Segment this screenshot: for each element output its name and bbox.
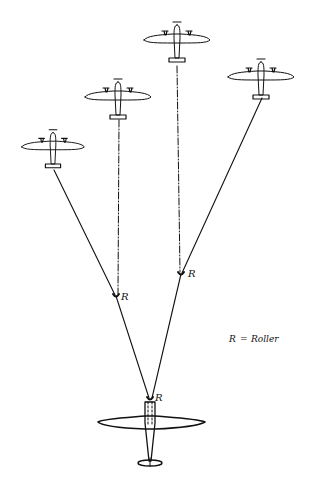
- hose-right-to-tanker: [152, 274, 181, 398]
- hose-left-to-tanker: [116, 296, 149, 398]
- receiver-aircraft-3: [144, 22, 210, 62]
- legend-meaning: Roller: [250, 334, 279, 344]
- roller-label-right: R: [187, 268, 196, 279]
- roller-icon: [178, 272, 184, 275]
- roller-markers: R R R: [113, 268, 196, 403]
- roller-icon: [113, 294, 119, 297]
- hose-receiver-4: [182, 98, 262, 273]
- roller-icon: [147, 397, 153, 400]
- roller-label-left: R: [120, 291, 129, 302]
- hose-receiver-2: [118, 120, 119, 294]
- tanker-aircraft: [98, 402, 205, 466]
- receiver-aircraft-1: [22, 130, 85, 168]
- hose-receiver-1: [54, 170, 115, 295]
- hose-lines: [54, 66, 262, 398]
- legend-separator: =: [240, 334, 248, 344]
- refuelling-diagram: R R R: [0, 0, 313, 501]
- legend-key: R: [228, 334, 236, 344]
- hose-receiver-3: [177, 66, 180, 272]
- roller-label-tanker: R: [154, 392, 163, 403]
- legend: R = Roller: [228, 334, 279, 344]
- receiver-aircraft-4: [228, 59, 294, 99]
- receiver-aircraft-2: [85, 79, 151, 119]
